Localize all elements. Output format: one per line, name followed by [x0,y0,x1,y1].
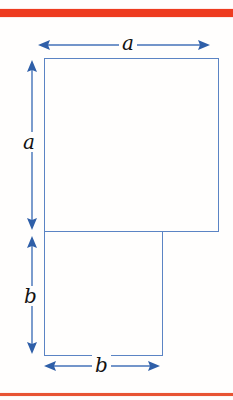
dimension-label-a-top: a [119,33,137,53]
bottom-red-rule [0,393,233,396]
dimension-label-a-left: a [20,132,38,152]
square-side-a [44,58,219,232]
rectangle-width-b [44,231,163,356]
dimension-label-b-left: b [21,286,40,306]
dimension-label-b-bottom: b [92,355,111,375]
geometry-figure: a a b b [0,0,233,400]
top-red-rule [0,9,233,17]
